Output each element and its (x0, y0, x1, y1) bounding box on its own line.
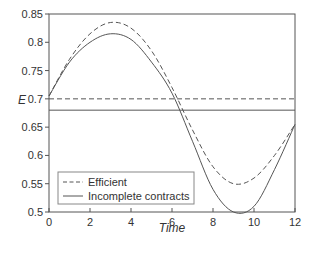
series-line-efficient (49, 22, 295, 184)
x-tick-label: 2 (87, 216, 93, 228)
x-tick-label: 4 (128, 216, 134, 228)
y-tick-label: 0.75 (22, 65, 43, 77)
x-axis-label: Time (159, 221, 186, 235)
y-tick-label: 0.8 (28, 36, 43, 48)
y-axis-ticks: 0.50.550.60.650.70.750.80.85 (22, 8, 49, 218)
y-tick-label: 0.85 (22, 8, 43, 20)
y-tick-label: 0.7 (28, 93, 43, 105)
x-tick-label: 12 (289, 216, 301, 228)
y-tick-label: 0.6 (28, 149, 43, 161)
line-chart: 0.50.550.60.650.70.750.80.85 024681012 E… (0, 0, 311, 257)
legend: Efficient Incomplete contracts (58, 172, 194, 204)
legend-label-incomplete: Incomplete contracts (88, 190, 190, 202)
legend-label-efficient: Efficient (88, 176, 127, 188)
y-tick-label: 0.55 (22, 178, 43, 190)
x-tick-label: 10 (248, 216, 260, 228)
y-tick-label: 0.65 (22, 121, 43, 133)
x-tick-label: 0 (46, 216, 52, 228)
y-axis-label: E (18, 93, 27, 107)
y-tick-label: 0.5 (28, 206, 43, 218)
x-tick-label: 8 (210, 216, 216, 228)
